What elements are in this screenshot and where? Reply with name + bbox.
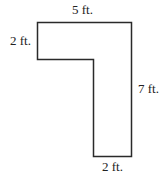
right-dimension-label: 7 ft. — [138, 82, 159, 95]
l-shape-diagram: 5 ft. 2 ft. 7 ft. 2 ft. — [0, 0, 168, 175]
l-shape-outline — [38, 23, 132, 157]
top-dimension-label: 5 ft. — [72, 3, 93, 16]
bottom-dimension-label: 2 ft. — [102, 160, 123, 173]
left-dimension-label: 2 ft. — [10, 34, 31, 47]
